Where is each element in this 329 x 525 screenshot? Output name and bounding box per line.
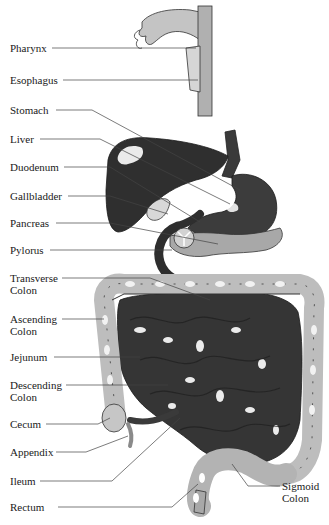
label-descending-colon: Descending Colon: [10, 379, 62, 403]
label-cecum: Cecum: [10, 418, 41, 430]
label-pancreas: Pancreas: [10, 217, 49, 229]
cecum-shape: [102, 404, 126, 432]
sigmoid-colon-shape: [198, 459, 286, 506]
label-pharynx: Pharynx: [10, 42, 47, 54]
label-stomach: Stomach: [10, 104, 49, 116]
leader-rectum: [58, 484, 198, 507]
label-ascending-colon: Ascending Colon: [10, 313, 57, 337]
label-gallbladder: Gallbladder: [10, 190, 62, 202]
label-ileum: Ileum: [10, 475, 36, 487]
label-pylorus: Pylorus: [10, 244, 44, 256]
label-rectum: Rectum: [10, 501, 44, 513]
label-esophagus: Esophagus: [10, 74, 58, 86]
appendix-shape: [128, 424, 131, 446]
label-transverse-colon: Transverse Colon: [10, 272, 58, 296]
label-liver: Liver: [10, 133, 34, 145]
label-jejunum: Jejunum: [10, 351, 47, 363]
label-appendix: Appendix: [10, 446, 53, 458]
label-duodenum: Duodenum: [10, 161, 59, 173]
digestive-system-diagram: Pharynx Esophagus Stomach Liver Duodenum…: [0, 0, 329, 525]
pharynx-shape: [134, 6, 212, 116]
leader-cecum: [46, 418, 110, 424]
label-sigmoid-colon: Sigmoid Colon: [282, 480, 319, 504]
leader-appendix: [56, 436, 128, 452]
